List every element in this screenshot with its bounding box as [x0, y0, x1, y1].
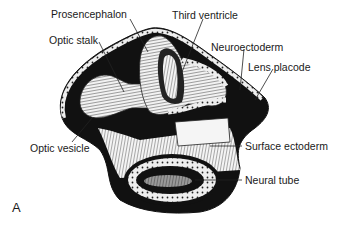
- label-optic-vesicle: Optic vesicle: [30, 143, 90, 154]
- label-optic-stalk: Optic stalk: [49, 35, 98, 46]
- label-prosencephalon: Prosencephalon: [51, 9, 127, 20]
- panel-label: A: [12, 200, 21, 215]
- label-neuroectoderm: Neuroectoderm: [211, 42, 283, 53]
- label-neural-tube: Neural tube: [245, 175, 299, 186]
- label-lens-placode: Lens placode: [248, 62, 310, 73]
- label-surface-ectoderm: Surface ectoderm: [245, 141, 328, 152]
- label-third-ventricle: Third ventricle: [172, 10, 238, 21]
